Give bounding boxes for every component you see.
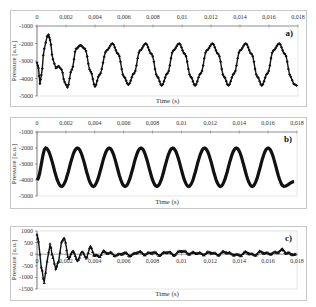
x-tick-label: 0,012 (204, 14, 218, 20)
data-point-marker (50, 43, 53, 46)
y-tick-label: -5000 (19, 193, 33, 199)
data-point-marker (65, 249, 68, 252)
data-point-marker (37, 67, 40, 70)
y-tick-label: -1500 (19, 286, 33, 292)
y-tick-label: -3000 (19, 58, 33, 64)
data-point-marker (152, 60, 155, 63)
x-tick-label: 0,018 (290, 258, 304, 264)
data-point-marker (53, 262, 56, 265)
x-tick-label: 0 (36, 14, 39, 20)
y-tick-label: 0 (30, 251, 33, 257)
data-point-marker (36, 61, 39, 64)
x-tick-label: 0,004 (88, 120, 102, 126)
data-point-marker (120, 67, 123, 70)
x-axis-title: Time (s) (156, 97, 180, 105)
x-tick-label: 0,008 (146, 258, 160, 264)
data-point-marker (154, 67, 157, 70)
data-point-marker (286, 60, 289, 63)
x-tick-label: 0,006 (117, 14, 131, 20)
data-line (37, 148, 294, 186)
data-point-marker (287, 67, 290, 70)
data-point-marker (38, 82, 41, 85)
data-point-marker (252, 60, 255, 63)
y-tick-label: -3000 (19, 161, 33, 167)
x-tick-label: 0,018 (290, 120, 304, 126)
x-tick-label: 0,002 (59, 14, 73, 20)
x-tick-label: 0,004 (88, 14, 102, 20)
data-point-marker (44, 271, 47, 274)
data-point-marker (86, 55, 89, 58)
x-tick-label: 0,002 (59, 258, 73, 264)
data-point-marker (254, 67, 257, 70)
data-point-marker (119, 60, 122, 63)
data-point-marker (37, 240, 40, 243)
data-point-marker (43, 47, 46, 50)
y-tick-label: -1000 (19, 274, 33, 280)
data-point-marker (51, 256, 54, 259)
x-tick-label: 0,004 (88, 258, 102, 264)
y-tick-label: -1000 (19, 129, 33, 135)
data-point-marker (68, 77, 71, 80)
data-point-marker (59, 251, 62, 254)
x-tick-label: 0,014 (232, 258, 246, 264)
data-point-marker (41, 67, 44, 70)
panel-label: b) (284, 134, 292, 144)
x-tick-label: 0,016 (262, 14, 276, 20)
data-point-marker (186, 60, 189, 63)
x-axis-title: Time (s) (155, 198, 179, 206)
x-tick-label: 0,01 (176, 258, 187, 264)
data-point-marker (103, 55, 106, 58)
data-point-marker (100, 67, 103, 70)
data-point-marker (96, 79, 99, 82)
y-tick-label: -500 (22, 263, 33, 269)
data-point-marker (72, 58, 75, 61)
data-point-marker (43, 281, 46, 284)
y-tick-label: -5000 (19, 93, 33, 99)
data-point-marker (91, 77, 94, 80)
data-point-marker (87, 251, 90, 254)
panel-label: c) (285, 233, 292, 243)
x-tick-label: 0,01 (176, 120, 187, 126)
data-point-marker (50, 53, 53, 56)
data-point-marker (220, 67, 223, 70)
x-tick-label: 0,006 (117, 258, 131, 264)
data-point-marker (101, 61, 104, 64)
y-tick-label: -2000 (19, 145, 33, 151)
y-tick-label: -2000 (19, 41, 33, 47)
data-point-marker (44, 41, 47, 44)
y-tick-label: 500 (24, 240, 33, 246)
data-point-marker (135, 64, 138, 67)
data-line (37, 35, 297, 88)
data-point-marker (168, 64, 171, 67)
data-point-marker (46, 260, 49, 263)
panel-label: a) (286, 28, 294, 38)
data-point-marker (203, 57, 206, 60)
data-point-marker (169, 57, 172, 60)
data-point-marker (49, 242, 52, 245)
data-point-marker (78, 256, 81, 259)
x-tick-label: 0,002 (59, 120, 73, 126)
x-axis-title: Time (s) (155, 290, 179, 298)
x-tick-label: 0,008 (146, 120, 160, 126)
y-axis-title: Pressure [a.u.] (10, 41, 18, 81)
data-point-marker (235, 64, 238, 67)
y-tick-label: -4000 (19, 76, 33, 82)
data-point-marker (36, 233, 39, 236)
x-tick-label: 0 (36, 258, 39, 264)
y-tick-label: -4000 (19, 177, 33, 183)
y-tick-label: 1000 (21, 228, 33, 234)
x-tick-label: 0,016 (261, 258, 275, 264)
x-tick-label: 0,014 (233, 14, 247, 20)
x-tick-label: 0,012 (204, 120, 218, 126)
data-point-marker (187, 67, 190, 70)
data-point-marker (202, 64, 205, 67)
x-tick-label: 0,014 (232, 120, 246, 126)
data-point-marker (236, 57, 239, 60)
x-tick-label: 0,018 (291, 14, 305, 20)
x-tick-label: 0,01 (177, 14, 188, 20)
data-point-marker (87, 62, 90, 65)
data-point-marker (270, 57, 273, 60)
y-tick-label: -1000 (19, 23, 33, 29)
x-tick-label: 0,012 (204, 258, 218, 264)
data-point-marker (268, 64, 271, 67)
